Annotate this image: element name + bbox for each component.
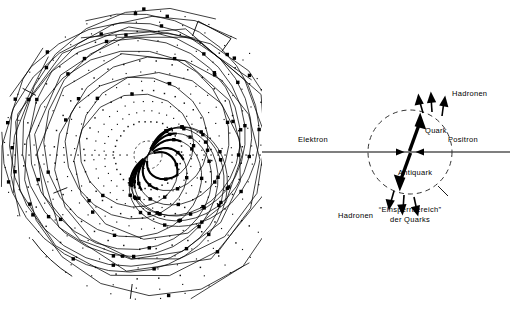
wire-dot: [71, 119, 72, 120]
wire-dot: [241, 89, 242, 90]
wire-dot: [175, 213, 176, 214]
wire-dot: [52, 250, 53, 251]
track-hit: [66, 72, 69, 75]
wire-dot: [105, 166, 106, 167]
wire-dot: [63, 95, 64, 96]
wire-dot: [125, 203, 126, 204]
wire-dot: [196, 51, 197, 52]
track-hit: [87, 199, 90, 202]
confinement-label-line1: “Einsperrbereich”: [379, 205, 442, 214]
track-hit: [180, 125, 183, 128]
wire-dot: [142, 90, 143, 91]
wire-dot: [129, 114, 130, 115]
wire-dot: [224, 119, 225, 120]
wire-dot: [88, 214, 89, 215]
wire-dot-axis: [28, 154, 29, 155]
wire-dot: [26, 211, 27, 212]
wire-dot: [89, 127, 90, 128]
tick-left: [53, 188, 67, 194]
wire-dot: [67, 235, 68, 236]
wire-dot: [202, 159, 203, 160]
track-hit: [130, 92, 133, 95]
wire-dot: [208, 112, 209, 113]
wire-dot: [8, 192, 9, 193]
track-hit: [105, 40, 108, 43]
wire-dot: [133, 124, 134, 125]
wire-dot: [232, 194, 233, 195]
wire-dot: [177, 45, 178, 46]
track-hit: [132, 255, 135, 258]
wire-dot: [161, 184, 162, 185]
wire-dot: [207, 95, 208, 96]
wire-dot-axis: [91, 154, 92, 155]
wire-dot: [225, 100, 226, 101]
wire-dot: [116, 140, 117, 141]
wire-dot: [140, 71, 141, 72]
wire-dot: [122, 118, 123, 119]
track-hit: [248, 74, 251, 77]
wire-dot: [159, 113, 160, 114]
track-hit: [206, 149, 209, 152]
wire-dot: [74, 148, 75, 149]
wire-dot: [105, 216, 106, 217]
wire-dot: [133, 102, 134, 103]
track-hit: [218, 150, 221, 153]
wire-dot: [249, 225, 250, 226]
wire-dot: [65, 36, 66, 37]
wire-dot: [172, 190, 173, 191]
wire-dot: [116, 221, 117, 222]
track-hit: [112, 263, 115, 266]
wire-dot: [8, 117, 9, 118]
wire-dot: [43, 164, 44, 165]
wire-dot: [204, 32, 205, 33]
wire-dot: [120, 213, 121, 214]
track-hit: [177, 219, 180, 222]
wire-dot: [88, 240, 89, 241]
wire-dot: [120, 174, 121, 175]
wire-dot: [247, 128, 248, 129]
event-display-panel: [0, 0, 262, 310]
wire-dot: [62, 214, 63, 215]
wire-dot: [55, 219, 56, 220]
wire-dot: [95, 207, 96, 208]
track-hit: [46, 50, 49, 53]
wire-dot-axis: [210, 154, 211, 155]
positron-beam-arrowhead: [416, 149, 425, 156]
wire-dot: [174, 96, 175, 97]
wire-dot: [184, 102, 185, 103]
track-hit: [134, 12, 137, 15]
wire-dot: [155, 71, 156, 72]
wire-dot: [107, 240, 108, 241]
track-hit: [200, 130, 203, 133]
wire-dot: [104, 158, 105, 159]
quark-label: Quark: [425, 126, 447, 135]
track-hit: [148, 197, 151, 200]
wire-dot: [195, 86, 196, 87]
wire-dot-axis: [252, 154, 253, 155]
track-hit: [227, 185, 230, 188]
wire-dot: [153, 218, 154, 219]
wire-dot: [115, 35, 116, 36]
wire-dot: [167, 227, 168, 228]
wire-dot: [104, 143, 105, 144]
wire-dot: [164, 93, 165, 94]
wire-dot: [214, 88, 215, 89]
wire-dot: [110, 192, 111, 193]
wire-dot: [231, 147, 232, 148]
wire-dot: [181, 145, 182, 146]
wire-dot: [201, 150, 202, 151]
wire-spoke: [135, 11, 146, 123]
wire-spoke: [5, 157, 115, 168]
wire-dot: [179, 199, 180, 200]
wire-dot-axis: [245, 154, 246, 155]
wire-dot: [156, 121, 157, 122]
wire-dot-axis: [112, 154, 113, 155]
wire-dot: [83, 149, 84, 150]
wire-dot: [155, 239, 156, 240]
wire-dot: [232, 214, 233, 215]
wire-dot: [47, 181, 48, 182]
wire-dot: [125, 105, 126, 106]
wire-dot: [123, 179, 124, 180]
wire-dot: [34, 144, 35, 145]
wire-dot-axis: [189, 154, 190, 155]
